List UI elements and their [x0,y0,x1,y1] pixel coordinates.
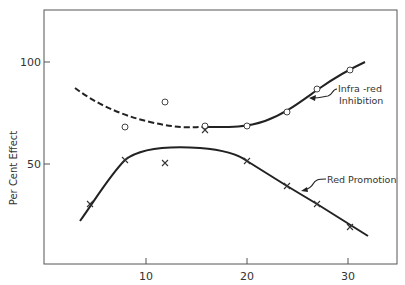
red-promotion-curve [80,147,368,236]
red-promotion-annotation: Red Promotion [301,174,396,192]
chart-figure: 10 20 30 100 50 Per Cent Effect [0,0,405,285]
circle-marker [162,99,168,105]
circle-marker [347,67,353,73]
circle-marker [244,123,250,129]
cross-marker [244,158,250,164]
y-axis-title: Per Cent Effect [8,131,19,206]
red-promotion-label: Red Promotion [327,174,396,185]
annotation-arrow-line [304,179,326,190]
circle-marker [314,86,320,92]
cross-marker [284,183,290,189]
x-tick-label-20: 20 [240,270,254,283]
red-promotion-markers [87,127,353,230]
infrared-markers [122,67,353,130]
cross-marker [314,201,320,207]
cross-marker [162,160,168,166]
circle-marker [284,109,290,115]
infrared-annotation: Infra -red Inhibition [309,83,383,106]
y-tick-label-100: 100 [20,56,41,69]
x-tick-label-10: 10 [139,270,153,283]
x-axis: 10 20 30 [139,258,355,283]
arrow-head-icon [301,187,308,192]
y-tick-label-50: 50 [27,158,41,171]
cross-marker [122,157,128,163]
infrared-curve-dashed [75,88,205,127]
circle-marker [122,124,128,130]
infrared-label-line1: Infra -red [338,83,382,94]
infrared-label-line2: Inhibition [339,95,383,106]
plot-frame [44,10,397,264]
x-tick-label-30: 30 [341,270,355,283]
